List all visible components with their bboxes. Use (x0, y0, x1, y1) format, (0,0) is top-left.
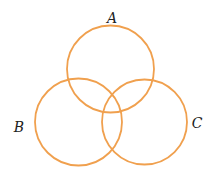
set-b-label: B (13, 119, 24, 135)
set-a-label: A (105, 10, 117, 26)
venn-diagram: A B C (0, 0, 214, 178)
set-c-circle (102, 80, 187, 165)
set-c-label: C (192, 115, 203, 131)
set-b-circle (35, 79, 122, 166)
set-a-circle (67, 26, 154, 113)
